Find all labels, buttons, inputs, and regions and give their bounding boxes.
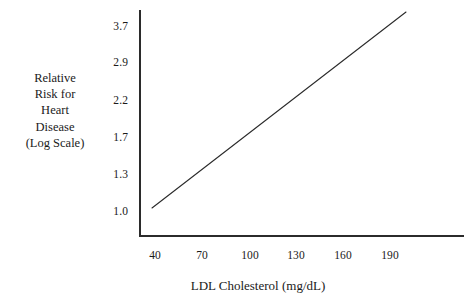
x-tick-label-100: 100: [230, 249, 270, 261]
x-tick-label-130: 130: [276, 249, 316, 261]
risk-trend-line: [152, 12, 406, 208]
x-tick-label-160: 160: [323, 249, 363, 261]
x-tick-label-190: 190: [370, 249, 410, 261]
x-tick-label-70: 70: [182, 249, 222, 261]
chart-figure: Relative Risk for Heart Disease (Log Sca…: [0, 0, 475, 305]
x-axis-title: LDL Cholesterol (mg/dL): [148, 278, 368, 294]
x-tick-label-40: 40: [135, 249, 175, 261]
